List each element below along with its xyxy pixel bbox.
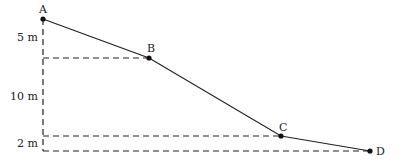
point-c-marker: [278, 133, 283, 138]
height-label-cd: 2 m: [17, 137, 38, 150]
point-b-label: B: [147, 42, 155, 55]
point-a-label: A: [38, 3, 48, 16]
height-label-bc: 10 m: [10, 90, 38, 103]
point-c-label: C: [279, 121, 287, 134]
point-d-marker: [367, 148, 372, 153]
point-d-label: D: [376, 145, 385, 158]
point-a-marker: [40, 16, 45, 21]
slope-profile-line: [43, 19, 370, 151]
point-b-marker: [146, 55, 151, 60]
height-label-ab: 5 m: [17, 31, 38, 44]
slope-diagram: A B C D 5 m 10 m 2 m: [0, 0, 404, 165]
